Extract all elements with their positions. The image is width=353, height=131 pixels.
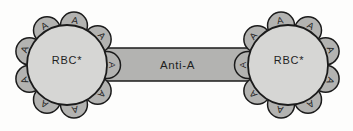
agglutination-diagram: AAAAAAAAA AAAAAAAAA Anti-A RBC* RBC* <box>0 0 353 131</box>
antigen-label: A <box>237 61 248 68</box>
antigen-label: A <box>107 62 118 69</box>
figure-canvas: AAAAAAAAA AAAAAAAAA Anti-A RBC* RBC* <box>0 0 353 131</box>
rbc-left-label: RBC* <box>52 54 83 66</box>
antibody-bar-label: Anti-A <box>160 59 195 71</box>
rbc-right-label: RBC* <box>274 54 305 66</box>
